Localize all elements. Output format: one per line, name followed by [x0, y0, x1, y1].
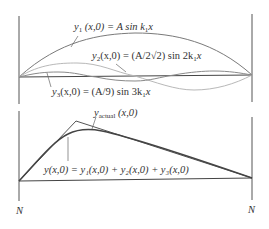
y3-leader — [47, 73, 51, 87]
top-panel: y1 (x,0) = A sin k1x y2(x,0) = (A/2√2) s… — [19, 14, 252, 104]
y1-label: y1 (x,0) = A sin k1x — [73, 21, 153, 34]
actual-label: yactual (x,0) — [93, 107, 138, 120]
standing-wave-fourier-diagram: y1 (x,0) = A sin k1x y2(x,0) = (A/2√2) s… — [0, 0, 269, 229]
bottom-panel: yactual (x,0) y(x,0) = y₁(x,0) + y₂(x,0)… — [15, 107, 256, 216]
sum-label: y(x,0) = y₁(x,0) + y₂(x,0) + y₃(x,0) — [43, 164, 189, 176]
y1-leader — [71, 36, 78, 47]
y3-label: y3(x,0) = (A/9) sin 3k1x — [51, 86, 151, 99]
node-left-label: N — [15, 205, 24, 216]
node-right-label: N — [247, 204, 256, 215]
baseline-bottom — [19, 178, 252, 181]
y2-label: y2(x,0) = (A/2√2) sin 2k1x — [91, 50, 202, 63]
